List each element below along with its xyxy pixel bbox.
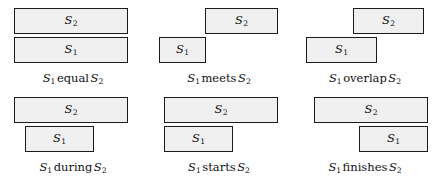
bar-label-s2: S2 bbox=[354, 15, 423, 27]
panel-caption-starts: S1startsS2 bbox=[146, 162, 292, 174]
caption-operand-s2: S2 bbox=[389, 160, 402, 174]
bar-label-s2: S2 bbox=[206, 15, 277, 27]
caption-operand-s1: S1 bbox=[188, 160, 201, 174]
caption-relation: overlap bbox=[342, 71, 389, 85]
bar-s1-finishes: S1 bbox=[359, 126, 428, 152]
caption-relation: during bbox=[52, 160, 94, 174]
bar-s1-during: S1 bbox=[25, 126, 94, 152]
bar-label-s2: S2 bbox=[15, 104, 127, 116]
bar-s2-finishes: S2 bbox=[314, 97, 428, 123]
caption-operand-s1: S1 bbox=[187, 71, 200, 85]
bar-s2-starts: S2 bbox=[164, 97, 278, 123]
panel-equal: S2 S1 S1equalS2 bbox=[0, 0, 146, 89]
bar-s2-during: S2 bbox=[14, 97, 128, 123]
bar-s2-overlap: S2 bbox=[353, 8, 424, 34]
caption-relation: equal bbox=[55, 71, 90, 85]
caption-operand-s2: S2 bbox=[91, 71, 104, 85]
panel-caption-during: S1duringS2 bbox=[0, 162, 146, 174]
caption-relation: meets bbox=[200, 71, 238, 85]
panel-finishes: S2 S1 S1finishesS2 bbox=[292, 89, 438, 178]
panel-caption-meets: S1meetsS2 bbox=[146, 73, 292, 85]
caption-operand-s2: S2 bbox=[94, 160, 107, 174]
panel-caption-overlap: S1overlapS2 bbox=[292, 73, 438, 85]
bar-label-s2: S2 bbox=[315, 104, 427, 116]
caption-relation: starts bbox=[201, 160, 237, 174]
bar-s1-overlap: S1 bbox=[306, 37, 377, 63]
bar-s1-meets: S1 bbox=[159, 37, 206, 63]
bar-label-s1: S1 bbox=[307, 44, 376, 56]
caption-operand-s1: S1 bbox=[328, 160, 341, 174]
caption-operand-s2: S2 bbox=[388, 71, 401, 85]
caption-operand-s1: S1 bbox=[43, 71, 56, 85]
bar-label-s1: S1 bbox=[360, 133, 427, 145]
bar-s1-starts: S1 bbox=[164, 126, 233, 152]
bar-label-s1: S1 bbox=[165, 133, 232, 145]
bar-label-s1: S1 bbox=[160, 44, 205, 56]
caption-operand-s2: S2 bbox=[238, 71, 251, 85]
panel-caption-finishes: S1finishesS2 bbox=[292, 162, 438, 174]
bar-label-s2: S2 bbox=[15, 15, 127, 27]
caption-operand-s1: S1 bbox=[39, 160, 52, 174]
bar-label-s1: S1 bbox=[15, 44, 127, 56]
caption-relation: finishes bbox=[341, 160, 389, 174]
caption-operand-s2: S2 bbox=[237, 160, 250, 174]
panel-starts: S2 S1 S1startsS2 bbox=[146, 89, 292, 178]
panel-caption-equal: S1equalS2 bbox=[0, 73, 146, 85]
interval-relations-figure: S2 S1 S1equalS2 S2 S1 S1meetsS2 S2 S1 S1… bbox=[0, 0, 438, 179]
caption-operand-s1: S1 bbox=[329, 71, 342, 85]
panel-meets: S2 S1 S1meetsS2 bbox=[146, 0, 292, 89]
panel-overlap: S2 S1 S1overlapS2 bbox=[292, 0, 438, 89]
bar-s2-meets: S2 bbox=[205, 8, 278, 34]
bar-label-s2: S2 bbox=[165, 104, 277, 116]
panel-during: S2 S1 S1duringS2 bbox=[0, 89, 146, 178]
bar-label-s1: S1 bbox=[26, 133, 93, 145]
bar-s1-equal: S1 bbox=[14, 37, 128, 63]
bar-s2-equal: S2 bbox=[14, 8, 128, 34]
